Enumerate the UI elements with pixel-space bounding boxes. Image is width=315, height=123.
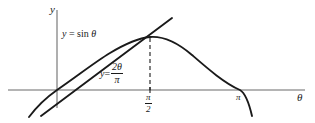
plot-svg — [0, 0, 315, 123]
line-label-fraction: 2θπ — [111, 62, 123, 85]
figure-canvas: y θ y = sin θ y = 2θπ π2 π — [0, 0, 315, 123]
linear-curve-label: y = 2θπ — [100, 62, 124, 85]
line-label-numerator: 2θ — [111, 62, 123, 73]
x-tick-label-pi: π — [236, 93, 241, 102]
sine-curve — [29, 37, 252, 117]
pi-half-fraction: π2 — [145, 93, 152, 114]
sine-label-arg: θ — [91, 28, 96, 39]
line-label-eq: = — [104, 69, 110, 79]
y-axis-label: y — [50, 4, 55, 15]
x-axis-label: θ — [297, 92, 302, 103]
x-tick-label-pi-half: π2 — [144, 93, 153, 114]
sine-label-eq: = sin — [66, 28, 91, 39]
pi-half-denominator: 2 — [145, 104, 152, 114]
line-label-denominator: π — [114, 74, 121, 85]
pi-half-numerator: π — [145, 93, 152, 103]
sine-curve-label: y = sin θ — [62, 29, 96, 39]
